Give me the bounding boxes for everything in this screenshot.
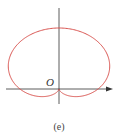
x-axis-arrow-icon: [106, 87, 113, 92]
figure-caption: (e): [0, 121, 118, 132]
origin-label: O: [46, 76, 54, 88]
polar-plot: [0, 0, 118, 138]
